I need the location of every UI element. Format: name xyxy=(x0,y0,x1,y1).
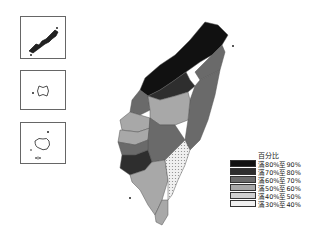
region-changhua xyxy=(120,112,150,132)
legend-swatch xyxy=(230,176,256,183)
legend-item: 滿30%至40% xyxy=(230,200,312,208)
legend-swatch xyxy=(230,168,256,175)
legend-label: 滿30%至40% xyxy=(258,199,301,209)
legend-swatch xyxy=(230,160,256,167)
legend-swatch xyxy=(230,184,256,191)
legend-swatch xyxy=(230,192,256,199)
legend-swatch xyxy=(230,200,256,207)
